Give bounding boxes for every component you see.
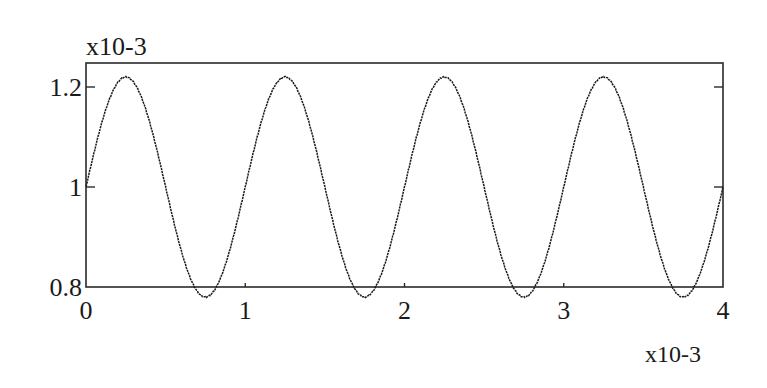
x-tick-label: 2 <box>398 296 411 325</box>
x-tick-label: 1 <box>239 296 252 325</box>
x-axis-tick-labels: 01234 <box>80 296 730 325</box>
x-tick-label: 4 <box>717 296 730 325</box>
y-multiplier-text: x10-3 <box>86 32 147 61</box>
y-tick-label: 0.8 <box>50 273 83 302</box>
line-chart: 0.811.2 01234 x10-3 x10-3 <box>0 0 767 388</box>
y-tick-label: 1.2 <box>50 73 83 102</box>
plot-area <box>86 63 723 297</box>
x-tick-label: 3 <box>557 296 570 325</box>
y-tick-label: 1 <box>69 173 82 202</box>
x-axis-multiplier: x10-3 <box>645 341 701 367</box>
x-multiplier-text: x10-3 <box>645 341 701 367</box>
x-tick-label: 0 <box>80 296 93 325</box>
y-axis-tick-labels: 0.811.2 <box>50 73 83 302</box>
data-series-line <box>86 77 723 298</box>
y-axis-multiplier: x10-3 <box>86 32 147 61</box>
